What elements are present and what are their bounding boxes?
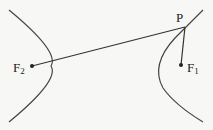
focus2-subscript: 2 [20, 66, 25, 76]
focus1-subscript: 1 [194, 66, 199, 76]
point-label-text: P [176, 10, 183, 25]
label-focus2: F2 [13, 61, 25, 76]
focus2-dot [30, 64, 34, 68]
label-point-p: P [176, 11, 183, 24]
focus1-dot [179, 63, 183, 67]
segment-p-f1 [181, 27, 185, 65]
hyperbola-diagram: P F2 F1 [0, 0, 213, 130]
label-focus1: F1 [187, 61, 199, 76]
segment-p-f2 [32, 27, 185, 66]
